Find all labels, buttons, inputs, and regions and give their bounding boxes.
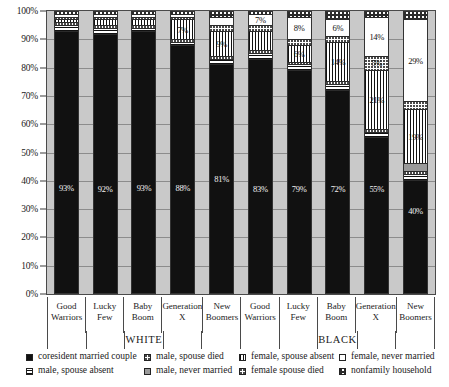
bar-segment-value-label: 8% [288, 24, 311, 33]
x-axis-label-8: GenerationX [355, 297, 396, 333]
bar-segment: 7% [249, 15, 272, 26]
x-axis-group-labels: WHITEBLACK [47, 331, 435, 349]
x-axis-label-line2: Warriors [48, 312, 85, 323]
bar-segment-value-label: 93% [132, 184, 155, 293]
x-axis-label-line1: Good [48, 301, 85, 312]
bar-segment [404, 12, 427, 20]
y-axis-tick-label: 30% [21, 204, 38, 214]
x-axis-label-7: BabyBoom [317, 297, 355, 333]
x-axis-label-line2: Boomers [397, 312, 434, 323]
y-axis-tick-label: 100% [17, 6, 38, 16]
y-axis-tick-label: 0% [26, 289, 38, 299]
stacked-bar: 8%6%79% [287, 11, 312, 294]
bar-segment-value-label: 55% [365, 185, 388, 294]
legend-item: female spouse died [239, 364, 339, 378]
x-axis-category-labels: GoodWarriorsLucky FewBabyBoomGenerationX… [47, 297, 435, 333]
x-axis-label-line1: Good [241, 301, 278, 312]
bar-segment-value-label: 40% [404, 207, 427, 294]
bar-segment-value-label: 6% [288, 49, 311, 58]
bar-segment: 93% [132, 32, 155, 293]
bar-segment-value-label: 88% [171, 184, 194, 293]
bar-segment: 5% [365, 57, 388, 71]
x-axis-label-line2: X [356, 312, 396, 323]
bar-series-container: 93%92%93%7%88%9%81%7%83%8%6%79%6%14%72%1… [47, 11, 435, 294]
x-axis-label-6: Lucky Few [279, 297, 317, 333]
bar-slot: 7%83% [241, 11, 280, 294]
y-axis-tick-label: 90% [21, 34, 38, 44]
stacked-bar: 29%19%40% [403, 11, 428, 294]
bar-segment-value-label: 21% [365, 96, 388, 105]
legend-swatch-icon [339, 368, 346, 375]
y-axis-tick-label: 10% [21, 261, 38, 271]
x-axis-label-line2: X [162, 312, 202, 323]
bar-segment: 83% [249, 60, 272, 293]
bar-segment-value-label: 14% [365, 33, 388, 42]
bar-slot: 7%88% [163, 11, 202, 294]
legend-item: male, never married [144, 364, 239, 378]
x-axis-label-line1: Baby [318, 301, 355, 312]
stacked-bar: 9%81% [209, 11, 234, 294]
legend: coresident married couplemale, spouse di… [26, 350, 436, 378]
x-axis-label-line1: Lucky Few [280, 301, 317, 323]
bar-segment: 92% [94, 35, 117, 294]
legend-item: coresident married couple [26, 350, 144, 364]
x-axis-group-label [279, 331, 318, 349]
bar-segment: 8% [288, 18, 311, 40]
bar-slot: 6%14%72% [319, 11, 358, 294]
bar-segment: 7% [171, 20, 194, 40]
stacked-bar: 93% [131, 11, 156, 294]
bar-slot: 92% [86, 11, 125, 294]
x-axis-group-label [47, 331, 86, 349]
x-axis-label-line1: Generation [356, 301, 396, 312]
x-axis-group-label: BLACK [317, 331, 357, 349]
x-axis-group-label: WHITE [124, 331, 163, 349]
x-axis-group-label [357, 331, 396, 349]
bar-segment: 19% [404, 110, 427, 163]
x-axis-group-label [201, 331, 240, 349]
x-axis-label-line2: Boomers [203, 312, 240, 323]
stacked-bar-chart-figure: 100%90%80%70%60%50%40%30%20%10%0% 93%92%… [0, 0, 449, 387]
x-axis-label-9: NewBoomers [396, 297, 435, 333]
bar-segment-value-label: 29% [404, 56, 427, 65]
y-axis-tick-label: 40% [21, 176, 38, 186]
y-axis-tick-label: 70% [21, 91, 38, 101]
legend-swatch-icon [144, 354, 151, 361]
stacked-bar: 7%83% [248, 11, 273, 294]
bar-segment: 29% [404, 20, 427, 101]
x-axis-label-line1: New [397, 301, 434, 312]
legend-item: male, spouse died [144, 350, 239, 364]
y-axis-tick-label: 60% [21, 119, 38, 129]
bar-slot: 14%5%21%55% [357, 11, 396, 294]
bar-segment: 55% [365, 138, 388, 293]
x-axis-label-line1: Baby [124, 301, 161, 312]
bar-segment: 6% [288, 46, 311, 63]
legend-label: male, never married [156, 366, 232, 376]
x-axis-label-1: Lucky Few [85, 297, 123, 333]
legend-item: male, spouse absent [26, 364, 144, 378]
bar-segment-value-label: 81% [210, 175, 233, 294]
legend-label: female spouse died [251, 366, 324, 376]
bar-segment [210, 18, 233, 26]
bar-slot: 9%81% [202, 11, 241, 294]
bar-segment-value-label: 14% [326, 58, 349, 67]
bar-segment-value-label: 7% [171, 26, 194, 35]
bar-segment-value-label: 83% [249, 185, 272, 294]
bar-segment [404, 102, 427, 110]
bar-segment: 88% [171, 46, 194, 293]
x-axis-label-2: BabyBoom [123, 297, 161, 333]
x-axis-label-line2: Boom [124, 312, 161, 323]
bar-segment-value-label: 5% [365, 59, 388, 68]
legend-swatch-icon [239, 354, 246, 361]
stacked-bar: 6%14%72% [325, 11, 350, 294]
legend-label: male, spouse absent [38, 366, 114, 376]
legend-label: male, spouse died [156, 352, 224, 362]
legend-swatch-icon [239, 368, 246, 375]
x-axis-label-4: NewBoomers [202, 297, 240, 333]
bar-segment: 72% [326, 91, 349, 293]
bar-segment: 21% [365, 71, 388, 130]
bar-segment [326, 12, 349, 20]
bar-segment: 6% [326, 20, 349, 37]
legend-swatch-icon [144, 368, 151, 375]
bar-segment-value-label: 93% [55, 184, 78, 293]
legend-item: nonfamily household [339, 364, 436, 378]
